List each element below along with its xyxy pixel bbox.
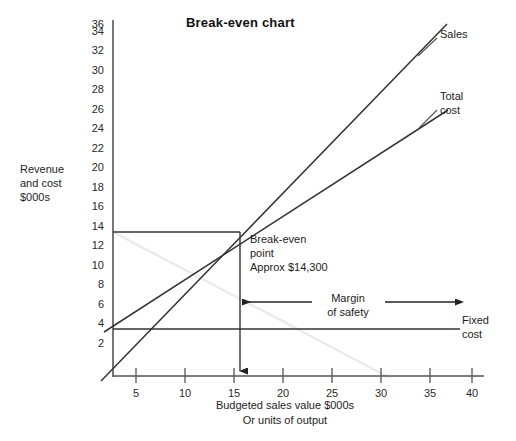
- y-tick-label: 8: [82, 278, 104, 290]
- sales-line: [101, 24, 447, 381]
- sales-leader-line: [418, 38, 437, 56]
- y-tick-label: 32: [82, 44, 104, 56]
- sales-series-label: Sales: [440, 28, 468, 41]
- margin-of-safety-annotation: Margin of safety: [315, 291, 381, 319]
- x-tick-label: 10: [173, 387, 197, 399]
- fixed-cost-series-label: Fixed cost: [462, 313, 489, 341]
- y-tick-label: 18: [82, 181, 104, 193]
- y-tick-label: 26: [82, 103, 104, 115]
- y-tick-label: 20: [82, 161, 104, 173]
- x-tick-label: 30: [369, 387, 393, 399]
- y-axis-title: Revenue and cost $000s: [20, 162, 64, 204]
- y-tick-label: 30: [82, 64, 104, 76]
- y-tick-label: 36: [82, 18, 104, 30]
- y-tick-label: 4: [82, 317, 104, 329]
- y-tick-label: 16: [82, 200, 104, 212]
- y-tick-label: 6: [82, 298, 104, 310]
- chart-canvas: [0, 0, 516, 441]
- x-tick-label: 35: [418, 387, 442, 399]
- total-cost-series-label: Total cost: [440, 89, 463, 117]
- x-axis-title: Budgeted sales value $000s Or units of o…: [140, 398, 430, 428]
- y-tick-label: 22: [82, 142, 104, 154]
- break-even-chart: Break-even chart Revenue and cost $000s …: [0, 0, 516, 441]
- y-tick-label: 12: [82, 239, 104, 251]
- x-tick-label: 5: [124, 387, 148, 399]
- chart-title: Break-even chart: [186, 15, 295, 30]
- y-tick-label: 14: [82, 220, 104, 232]
- x-tick-label: 40: [460, 387, 484, 399]
- x-tick-label: 25: [320, 387, 344, 399]
- y-tick-label: 10: [82, 259, 104, 271]
- y-tick-label: 24: [82, 122, 104, 134]
- y-tick-label: 28: [82, 83, 104, 95]
- break-even-point-annotation: Break-even point Approx $14,300: [250, 232, 328, 274]
- x-tick-label: 15: [222, 387, 246, 399]
- y-tick-label: 2: [82, 337, 104, 349]
- x-tick-label: 20: [271, 387, 295, 399]
- total-cost-line: [104, 110, 448, 332]
